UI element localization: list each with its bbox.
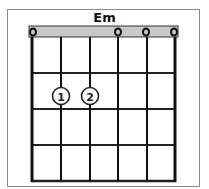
nut [29,26,178,37]
finger-marker-2: 2 [82,88,99,105]
fret-lines [31,73,176,181]
finger-marker-1: 1 [53,88,70,105]
svg-text:2: 2 [86,91,94,104]
fretboard: 1 2 [0,0,209,189]
svg-text:1: 1 [57,91,65,104]
